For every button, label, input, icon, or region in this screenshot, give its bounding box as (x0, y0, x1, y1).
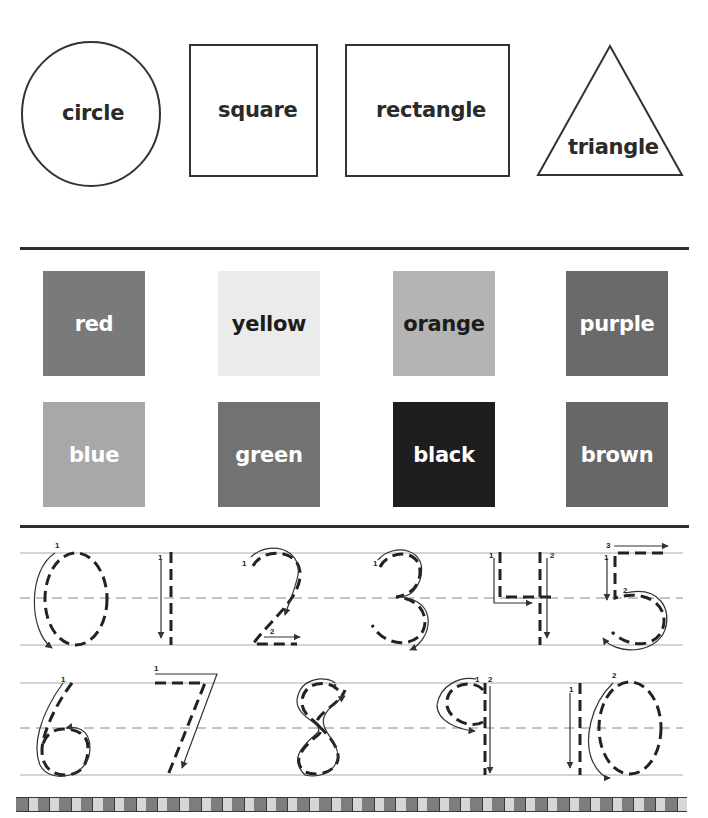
guide-lines-row-2 (20, 683, 683, 775)
label-10-1: 1 (569, 685, 574, 694)
border-tile (492, 798, 514, 811)
border-tile (167, 798, 189, 811)
label-2-2: 2 (270, 627, 275, 636)
border-tile (622, 798, 644, 811)
arrow-10-zero (589, 683, 613, 778)
guide-lines-row-1 (20, 553, 683, 645)
border-tile (16, 798, 38, 811)
label-4-1: 1 (489, 551, 494, 560)
decorative-border (16, 797, 687, 812)
label-4-2: 2 (550, 551, 555, 560)
label-5-2: 2 (623, 586, 628, 595)
border-tile (103, 798, 125, 811)
border-tile (254, 798, 276, 811)
border-tile (59, 798, 81, 811)
border-tile (600, 798, 622, 811)
border-tile (362, 798, 384, 811)
stroke-order-labels: 1 1 1 2 1 1 2 3 1 2 1 1 1 1 2 1 2 (55, 541, 628, 694)
digit-4 (500, 552, 552, 645)
border-tile (146, 798, 168, 811)
digit-8 (299, 683, 345, 774)
label-0-1: 1 (55, 541, 60, 550)
digit-2 (253, 553, 300, 644)
border-tile (644, 798, 666, 811)
stroke-direction-arrows (34, 546, 668, 778)
border-tile (341, 798, 363, 811)
border-tile (124, 798, 146, 811)
border-tile (406, 798, 428, 811)
border-tile (665, 798, 687, 811)
label-5-1: 1 (604, 553, 609, 562)
label-3-1: 1 (373, 559, 378, 568)
digit-0 (45, 553, 107, 645)
border-tile (211, 798, 233, 811)
border-tile (319, 798, 341, 811)
digit-7 (155, 683, 205, 775)
label-1-1: 1 (158, 553, 163, 562)
border-tile (514, 798, 536, 811)
border-tile (276, 798, 298, 811)
label-9-1: 1 (475, 675, 480, 684)
digit-9-loop (447, 684, 483, 725)
arrow-3 (378, 550, 428, 650)
label-5-3: 3 (606, 541, 611, 550)
border-tile (449, 798, 471, 811)
border-tile (232, 798, 254, 811)
arrow-5-2 (603, 591, 667, 649)
border-tile (535, 798, 557, 811)
border-tile (189, 798, 211, 811)
label-6-1: 1 (61, 675, 66, 684)
label-7-1: 1 (154, 664, 159, 673)
label-8-1: 1 (333, 682, 338, 691)
arrow-9 (437, 678, 476, 731)
label-10-2: 2 (612, 671, 617, 680)
arrow-7 (155, 674, 217, 768)
border-tile (579, 798, 601, 811)
border-tile (81, 798, 103, 811)
border-tile (427, 798, 449, 811)
border-tile (297, 798, 319, 811)
border-tile (557, 798, 579, 811)
label-2-1: 1 (242, 559, 247, 568)
border-tile (470, 798, 492, 811)
number-tracing: 1 1 1 2 1 1 2 3 1 2 1 1 1 1 2 1 2 (0, 0, 708, 818)
label-9-2: 2 (488, 675, 493, 684)
border-tile (38, 798, 60, 811)
border-tile (384, 798, 406, 811)
